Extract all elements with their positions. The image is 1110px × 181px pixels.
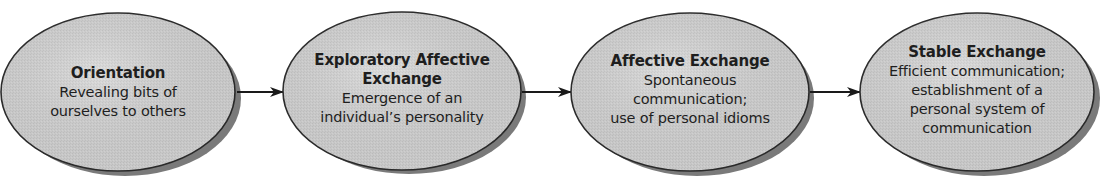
stage-description-line: communication	[922, 119, 1032, 138]
stage-description-line: individual’s personality	[320, 108, 483, 127]
stage-title: Stable Exchange	[908, 43, 1046, 62]
stage-label-orientation: Orientation Revealing bits of ourselves …	[8, 30, 228, 154]
stage-title: Exploratory Affective	[314, 51, 489, 70]
stage-description-line: Efficient communication;	[889, 62, 1065, 81]
stage-description-line: establishment of a	[911, 81, 1042, 100]
stage-description-line: Spontaneous	[644, 71, 737, 90]
stage-description-line: ourselves to others	[50, 102, 186, 121]
process-diagram: Orientation Revealing bits of ourselves …	[0, 0, 1110, 181]
stage-title: Exchange	[362, 70, 442, 89]
stage-description-line: personal system of	[910, 100, 1045, 119]
stage-description-line: Emergence of an	[342, 89, 462, 108]
stage-label-exploratory-affective-exchange: Exploratory Affective Exchange Emergence…	[287, 30, 517, 148]
stage-description-line: use of personal idioms	[610, 109, 770, 128]
stage-description-line: Revealing bits of	[59, 83, 176, 102]
stage-title: Orientation	[71, 64, 166, 83]
stage-label-stable-exchange: Stable Exchange Efficient communication;…	[862, 30, 1092, 150]
stage-title: Affective Exchange	[611, 52, 770, 71]
stage-description-line: communication;	[633, 90, 747, 109]
stage-label-affective-exchange: Affective Exchange Spontaneous communica…	[575, 30, 805, 150]
